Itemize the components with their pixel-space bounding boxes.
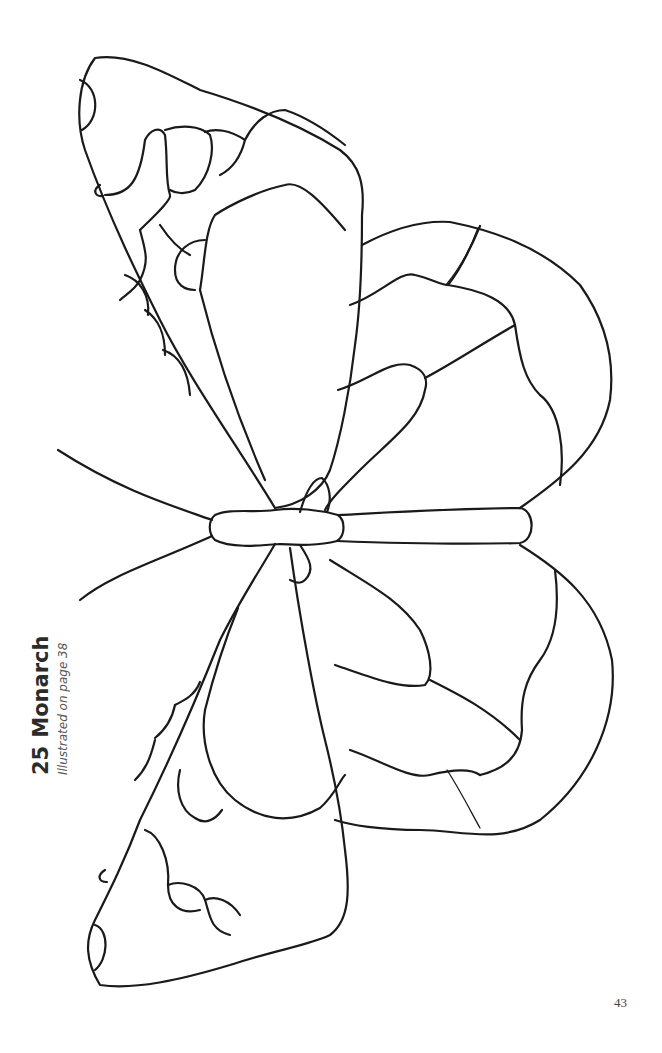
forewing-bottom-notch [100, 870, 107, 882]
forewing-top-vein-2 [160, 225, 190, 255]
page-number: 43 [614, 995, 627, 1011]
hindwing-top-band-inner [350, 274, 448, 305]
hindwing-bottom-band-inner [350, 750, 480, 776]
thorax [210, 509, 344, 546]
forewing-top-cell-2 [165, 127, 212, 193]
pattern-number: 25 [29, 746, 53, 775]
forewing-top-outline [79, 57, 363, 508]
hindwing-bottom-cell-lobe [330, 560, 430, 686]
forewing-bottom-cell-2 [168, 883, 230, 935]
hindwing-top-vein-thin [446, 228, 478, 285]
abdomen [337, 508, 532, 544]
pattern-caption: 25Monarch Illustrated on page 38 [29, 636, 71, 775]
hindwing-bottom-vein-1 [430, 680, 520, 740]
antenna-lower [80, 536, 212, 600]
forewing-bottom-inner-cell [204, 608, 345, 818]
forewing-bottom-edge-spot-1 [175, 682, 200, 705]
book-page: 25Monarch Illustrated on page 38 43 [0, 0, 662, 1053]
forewing-bottom-cell-3 [205, 898, 240, 915]
forewing-top-edge-spot-2 [145, 310, 165, 355]
forewing-top-edge-spot-3 [163, 350, 190, 395]
hindwing-bottom-band-outer [480, 570, 557, 775]
forewing-top-inner-cell [200, 184, 345, 480]
monarch-butterfly-pattern [0, 0, 662, 1053]
pattern-subtitle: Illustrated on page 38 [55, 636, 71, 775]
hindwing-bottom-vein-thin [447, 770, 480, 828]
forewing-bottom-apex-spot [95, 925, 106, 970]
forewing-bottom-outline [88, 544, 348, 986]
pattern-title: 25Monarch [29, 636, 53, 775]
pattern-name: Monarch [29, 636, 53, 738]
forewing-bottom-edge-spot-3 [135, 740, 155, 780]
antenna-upper [58, 450, 212, 520]
hindwing-top-vein-1 [425, 325, 515, 378]
hindwing-top-small-lobe [300, 478, 330, 512]
forewing-bottom-cell-1 [145, 830, 200, 911]
forewing-top-band [245, 110, 345, 145]
forewing-bottom-edge-spot-2 [155, 705, 175, 738]
forewing-top-cell-1 [105, 130, 170, 230]
